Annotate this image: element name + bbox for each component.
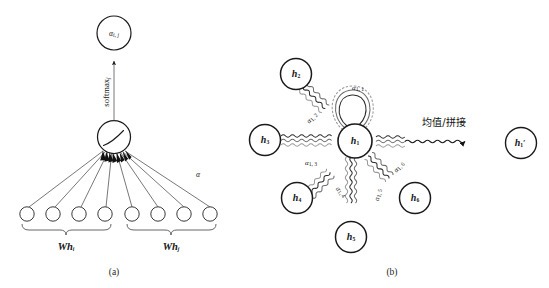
edge-h6-h1 (364, 152, 394, 183)
alpha-1-1-label: α1, 1 (352, 84, 364, 93)
panel-b-caption: (b) (386, 267, 397, 278)
edge-h5-h1 (345, 157, 356, 203)
input-node-3 (72, 207, 86, 221)
input-node-7 (177, 207, 191, 221)
input-node-5 (125, 207, 139, 221)
attention-vector-label: α (196, 170, 201, 179)
group-label-whj: Whj (163, 241, 180, 252)
edge-h3-h1 (281, 135, 332, 147)
aggregation-label: 均值/拼接 (422, 116, 465, 128)
leakyrelu-node (98, 121, 131, 154)
input-node-8 (203, 207, 217, 221)
alpha-1-3-label: α1, 3 (305, 159, 317, 168)
alpha-1-5-label: α1, 5 (373, 188, 384, 202)
edge-aggregation (376, 136, 465, 147)
input-node-6 (151, 207, 165, 221)
panel-a-caption: (a) (109, 267, 120, 278)
alpha-1-6-label: α1, 6 (392, 159, 407, 174)
input-node-2 (46, 207, 60, 221)
panel-a: softmaxj αi, j α Whi Whj (a) (20, 16, 217, 278)
brace-right-group (127, 224, 216, 235)
node-h1-prime-label: h1′ (515, 137, 526, 148)
input-node-4 (98, 207, 112, 221)
panel-b: h2 h3 h4 h5 h6 h1 h1′ α1, 1 α1, 2 α1, 3 … (250, 59, 537, 279)
panel-a-input-nodes (20, 207, 217, 221)
brace-left-group (22, 224, 111, 235)
softmax-label: softmaxj (101, 77, 112, 107)
gat-figure: softmaxj αi, j α Whi Whj (a) (0, 0, 549, 288)
figure-canvas: softmaxj αi, j α Whi Whj (a) (0, 0, 549, 288)
alpha-1-4-label: α1, 4 (334, 185, 349, 200)
alpha-1-2-label: α1, 2 (305, 110, 320, 125)
input-node-1 (20, 207, 34, 221)
group-label-whi: Whi (58, 241, 75, 252)
